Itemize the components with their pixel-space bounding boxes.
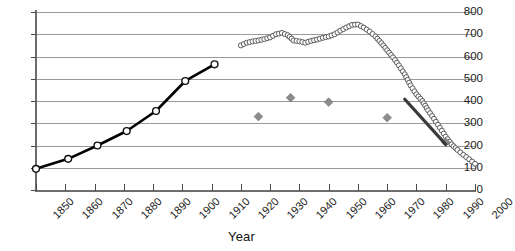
x-axis-tick-mark xyxy=(124,184,125,191)
data-point-marker xyxy=(94,142,101,149)
diamond-marker xyxy=(254,112,263,121)
x-axis-tick-mark xyxy=(182,184,183,191)
data-point-marker xyxy=(473,161,478,166)
data-point-marker xyxy=(65,155,72,162)
data-point-marker xyxy=(123,128,130,135)
x-axis-tick-mark xyxy=(65,184,66,191)
x-axis-tick-label: 2000 xyxy=(489,195,515,221)
x-axis-tick-mark xyxy=(299,184,300,191)
x-axis-tick-mark xyxy=(358,184,359,191)
diamond-marker xyxy=(383,113,392,122)
diamond-marker xyxy=(324,98,333,107)
data-point-marker xyxy=(182,78,189,85)
x-axis-tick-mark xyxy=(212,184,213,191)
x-axis-tick-mark xyxy=(241,184,242,191)
x-axis-tick-mark xyxy=(475,184,476,191)
x-axis-tick-mark xyxy=(387,184,388,191)
x-axis-tick-mark xyxy=(446,184,447,191)
diamond-marker xyxy=(286,93,295,102)
data-point-marker xyxy=(211,61,218,68)
x-axis-tick-mark xyxy=(270,184,271,191)
x-axis-tick-mark xyxy=(95,184,96,191)
data-point-marker xyxy=(33,165,40,172)
data-point-marker xyxy=(153,108,160,115)
x-axis-tick-mark xyxy=(416,184,417,191)
x-axis-tick-mark xyxy=(36,184,37,191)
x-axis-tick-mark xyxy=(329,184,330,191)
x-axis-title: Year xyxy=(0,229,483,244)
x-axis-tick-mark xyxy=(153,184,154,191)
